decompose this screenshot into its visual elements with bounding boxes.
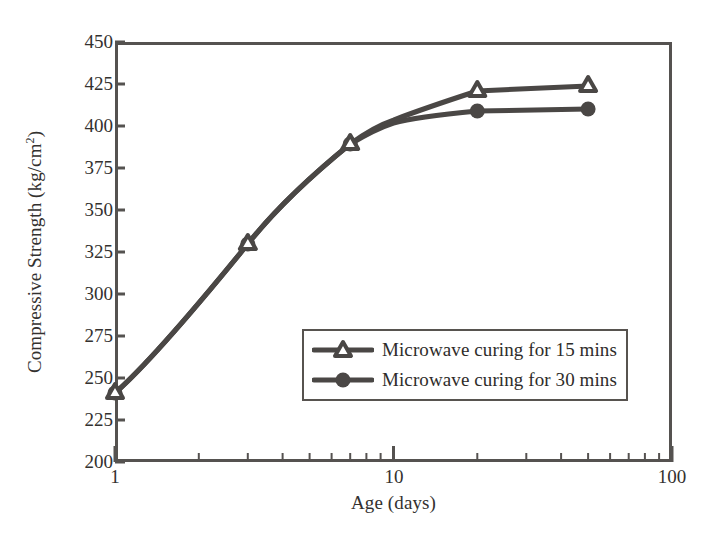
y-tick-label-225: 225: [85, 409, 114, 431]
y-tick-label-250: 250: [85, 367, 114, 389]
x-tick-label-100: 100: [658, 466, 687, 488]
legend-item-15mins: Microwave curing for 15 mins: [312, 335, 618, 365]
x-tick-label-1: 1: [110, 466, 120, 488]
y-tick-label-325: 325: [85, 241, 114, 263]
legend-label-30mins: Microwave curing for 30 mins: [382, 369, 617, 391]
y-tick-label-350: 350: [85, 199, 114, 221]
y-tick-label-400: 400: [85, 115, 114, 137]
y-tick-label-375: 375: [85, 157, 114, 179]
y-axis-title: Compressive Strength (kg/cm2): [24, 42, 46, 462]
y-axis-title-tail: ): [24, 131, 45, 137]
y-tick-label-300: 300: [85, 283, 114, 305]
y-tick-label-275: 275: [85, 325, 114, 347]
chart-legend: Microwave curing for 15 mins Microwave c…: [302, 329, 628, 401]
legend-key-filled-circle-icon: [312, 368, 374, 392]
x-axis-minor-ticks: [199, 453, 659, 462]
legend-label-15mins: Microwave curing for 15 mins: [382, 339, 617, 361]
legend-item-30mins: Microwave curing for 30 mins: [312, 365, 618, 395]
y-tick-label-200: 200: [85, 451, 114, 473]
y-axis-title-superscript: 2: [23, 137, 37, 143]
y-tick-label-450: 450: [85, 31, 114, 53]
legend-key-open-triangle-icon: [312, 338, 374, 362]
y-axis-title-text: Compressive Strength (kg/cm: [24, 143, 45, 373]
x-tick-label-10: 10: [385, 466, 404, 488]
chart-figure: Compressive Strength (kg/cm2) 450 425 40…: [0, 0, 721, 545]
x-axis-title: Age (days): [115, 492, 672, 514]
y-tick-label-425: 425: [85, 73, 114, 95]
